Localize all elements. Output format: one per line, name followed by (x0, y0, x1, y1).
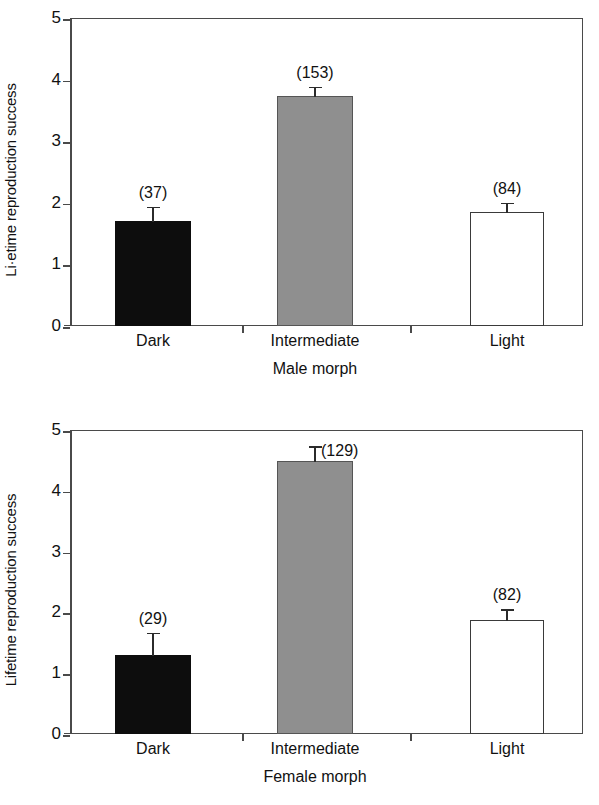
y-tick-mark (63, 265, 70, 267)
y-tick-label: 0 (52, 316, 61, 336)
x-category-label-intermediate: Intermediate (271, 331, 360, 350)
y-tick-mark (63, 553, 70, 555)
chart-panel-male: Li·etime reproduction success 012345(37)… (0, 0, 599, 400)
bar-dark (115, 655, 191, 734)
y-tick-mark (63, 19, 70, 21)
figure-two-panel-bar-charts: Li·etime reproduction success 012345(37)… (0, 0, 599, 805)
y-tick-label: 4 (52, 70, 61, 90)
error-bar-cap-intermediate (309, 446, 322, 448)
sample-size-label-intermediate: (153) (296, 64, 333, 82)
y-tick-mark (63, 327, 70, 329)
bar-light (470, 620, 544, 734)
error-bar-cap-light (501, 203, 514, 205)
y-tick-mark (63, 492, 70, 494)
y-tick-label: 5 (52, 8, 61, 28)
x-tick-mark (242, 733, 244, 741)
y-axis-line-male (70, 19, 72, 326)
y-tick-mark (63, 613, 70, 615)
y-tick-mark (63, 81, 70, 83)
y-tick-mark (63, 735, 70, 737)
x-category-label-dark: Dark (136, 331, 170, 350)
x-category-label-intermediate: Intermediate (271, 739, 360, 758)
bar-intermediate (277, 461, 353, 734)
chart-panel-female: Lifetime reproduction success 012345(29)… (0, 400, 599, 805)
y-tick-label: 1 (52, 663, 61, 683)
y-tick-label: 1 (52, 254, 61, 274)
error-bar-dark (152, 633, 154, 656)
x-axis-title-female: Female morph (263, 767, 366, 786)
sample-size-label-intermediate: (129) (321, 442, 358, 460)
y-axis-label-female: Lifetime reproduction success (2, 440, 19, 740)
y-tick-mark (63, 142, 70, 144)
error-bar-dark (152, 207, 154, 222)
error-bar-cap-dark (147, 207, 160, 209)
error-bar-light (506, 609, 508, 621)
error-bar-cap-dark (147, 633, 160, 635)
y-tick-label: 4 (52, 481, 61, 501)
y-tick-mark (63, 431, 70, 433)
error-bar-intermediate (314, 446, 316, 462)
x-tick-mark (242, 325, 244, 333)
y-axis-label-male: Li·etime reproduction success (2, 30, 19, 330)
y-tick-label: 5 (52, 420, 61, 440)
bar-dark (115, 221, 191, 326)
sample-size-label-dark: (37) (139, 184, 167, 202)
plot-area-female: 012345(29)(129)(82) (70, 430, 583, 734)
y-tick-label: 3 (52, 542, 61, 562)
bar-light (470, 212, 544, 326)
y-tick-label: 2 (52, 602, 61, 622)
x-category-label-dark: Dark (136, 739, 170, 758)
sample-size-label-dark: (29) (139, 610, 167, 628)
y-tick-mark (63, 674, 70, 676)
x-category-label-light: Light (490, 331, 525, 350)
sample-size-label-light: (82) (493, 586, 521, 604)
x-axis-title-male: Male morph (273, 359, 357, 378)
y-tick-mark (63, 204, 70, 206)
error-bar-cap-intermediate (309, 87, 322, 89)
y-tick-label: 2 (52, 193, 61, 213)
error-bar-cap-light (501, 609, 514, 611)
y-tick-label: 0 (52, 724, 61, 744)
plot-area-male: 012345(37)(153)(84) (70, 18, 583, 326)
x-category-label-light: Light (490, 739, 525, 758)
y-tick-label: 3 (52, 131, 61, 151)
x-tick-mark (410, 325, 412, 333)
bar-intermediate (277, 96, 353, 326)
sample-size-label-light: (84) (493, 180, 521, 198)
x-tick-mark (410, 733, 412, 741)
y-axis-line-female (70, 431, 72, 734)
